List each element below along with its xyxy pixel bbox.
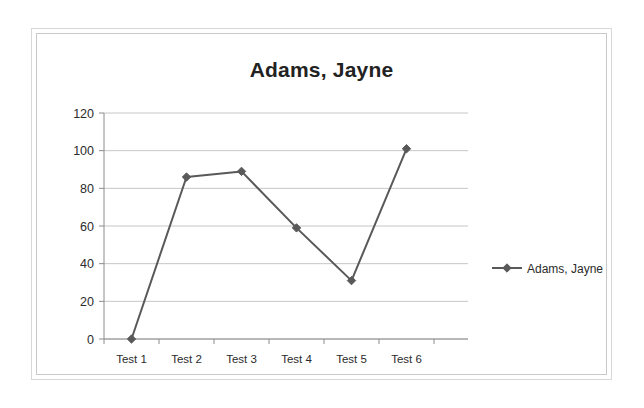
y-axis-tick-label: 40 xyxy=(80,257,94,271)
y-axis-tick-label: 0 xyxy=(87,333,94,347)
data-point-marker[interactable] xyxy=(127,335,135,343)
y-axis-tick-label: 120 xyxy=(73,107,94,121)
series-marker-group[interactable] xyxy=(127,145,410,344)
x-axis-tick-label: Test 2 xyxy=(171,353,202,365)
x-axis-tick-label: Test 5 xyxy=(336,353,367,365)
data-point-marker[interactable] xyxy=(402,145,410,153)
x-axis-tick-label: Test 4 xyxy=(281,353,312,365)
chart-plot-area: 020406080100120 Test 1Test 2Test 3Test 4… xyxy=(37,34,610,378)
screenshot-root: Adams, Jayne 020406080100120 Test 1Test … xyxy=(0,0,644,408)
line-chart-svg: 020406080100120 Test 1Test 2Test 3Test 4… xyxy=(37,34,610,378)
chart-legend[interactable]: Adams, Jayne xyxy=(492,262,603,276)
y-axis-tick-label: 20 xyxy=(80,295,94,309)
chart-outer-frame: Adams, Jayne 020406080100120 Test 1Test … xyxy=(31,28,612,380)
y-axis-tick-label: 80 xyxy=(80,182,94,196)
x-axis-ticks-group xyxy=(104,339,434,344)
x-axis-tick-label: Test 6 xyxy=(391,353,422,365)
y-axis-tick-label: 60 xyxy=(80,220,94,234)
y-axis-tick-label: 100 xyxy=(73,144,94,158)
series-line-group[interactable] xyxy=(132,149,407,339)
legend-entry-label: Adams, Jayne xyxy=(527,262,603,276)
y-axis-tick-labels-group: 020406080100120 xyxy=(73,107,94,347)
chart-inner-frame: Adams, Jayne 020406080100120 Test 1Test … xyxy=(36,33,607,375)
x-axis-tick-label: Test 3 xyxy=(226,353,257,365)
x-axis-tick-label: Test 1 xyxy=(116,353,147,365)
x-axis-tick-labels-group: Test 1Test 2Test 3Test 4Test 5Test 6 xyxy=(116,353,422,365)
legend-marker-icon xyxy=(503,264,511,272)
series-line[interactable] xyxy=(132,149,407,339)
y-axis-ticks-group xyxy=(99,113,104,339)
data-point-marker[interactable] xyxy=(182,173,190,181)
gridlines-group xyxy=(104,113,468,339)
